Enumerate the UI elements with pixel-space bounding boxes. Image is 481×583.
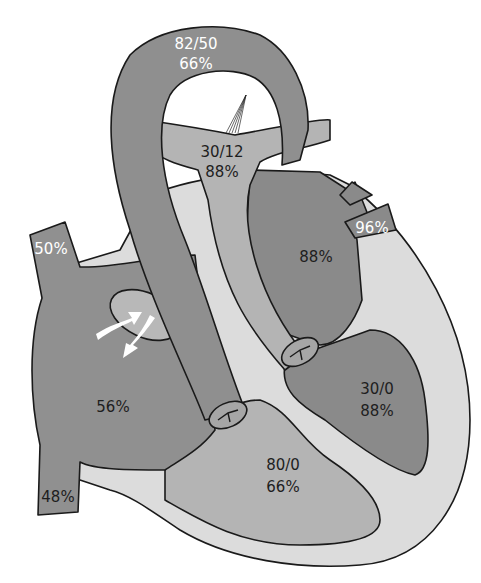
pulmonary-artery-pressure-label: 30/12	[200, 143, 243, 161]
ductus-arteriosus-ligament	[226, 95, 246, 133]
right-ventricle-pressure-label: 80/0	[266, 456, 300, 474]
aorta-pressure-label: 82/50	[174, 35, 217, 53]
heart-diagram: 82/50 66% 30/12 88% 50% 96% 88% 56% 48% …	[0, 0, 481, 583]
aorta-saturation-label: 66%	[179, 55, 212, 73]
right-ventricle-saturation-label: 66%	[266, 478, 299, 496]
right-atrium-label: 56%	[96, 398, 129, 416]
left-ventricle-saturation-label: 88%	[360, 402, 393, 420]
inferior-vena-cava-label: 48%	[41, 488, 74, 506]
pulmonary-vein-label: 96%	[355, 219, 388, 237]
left-ventricle-pressure-label: 30/0	[360, 380, 394, 398]
pulmonary-artery-saturation-label: 88%	[205, 163, 238, 181]
superior-vena-cava-label: 50%	[34, 240, 67, 258]
left-atrium-label: 88%	[299, 248, 332, 266]
